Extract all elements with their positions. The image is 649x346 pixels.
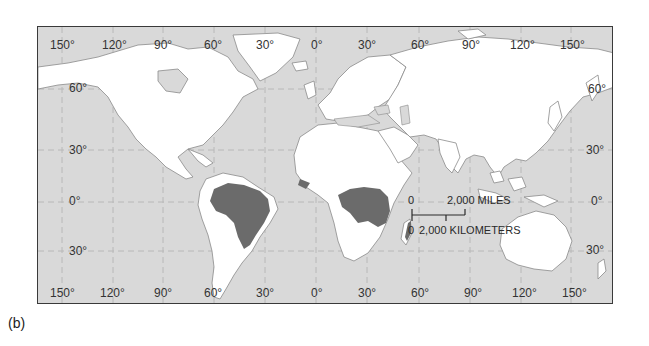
- world-map: 150° 120° 90° 60° 30° 0° 30° 60° 90° 120…: [37, 26, 613, 304]
- scale-km-label: 2,000 KILOMETERS: [419, 225, 521, 236]
- scale-miles-zero: 0: [408, 195, 414, 206]
- top-lon-label: 150°: [50, 39, 75, 51]
- scale-km-zero: 0: [408, 225, 414, 236]
- top-lon-label: 90°: [154, 39, 172, 51]
- map-canvas: [38, 27, 613, 304]
- top-lon-label: 120°: [510, 39, 535, 51]
- panel-label: (b): [8, 315, 25, 331]
- top-lon-label: 30°: [256, 39, 274, 51]
- left-lat-label: 60°: [69, 82, 87, 94]
- bottom-lon-label: 90°: [154, 287, 172, 299]
- bottom-lon-label: 30°: [358, 287, 376, 299]
- australia: [500, 211, 572, 271]
- top-lon-label: 60°: [411, 39, 429, 51]
- top-lon-label: 0°: [311, 39, 322, 51]
- bottom-lon-label: 60°: [204, 287, 222, 299]
- bottom-lon-label: 90°: [464, 287, 482, 299]
- left-lat-label: 30°: [69, 144, 87, 156]
- scale-miles-label: 2,000 MILES: [447, 195, 511, 206]
- right-lat-label: 30°: [586, 244, 604, 256]
- bottom-lon-label: 30°: [256, 287, 274, 299]
- bottom-lon-label: 120°: [512, 287, 537, 299]
- right-lat-label: 30°: [586, 144, 604, 156]
- left-lat-label: 0°: [69, 195, 80, 207]
- scale-bar: [412, 209, 465, 221]
- right-lat-label: 60°: [588, 83, 606, 95]
- bottom-lon-label: 120°: [100, 287, 125, 299]
- top-lon-label: 150°: [560, 39, 585, 51]
- top-lon-label: 90°: [462, 39, 480, 51]
- top-lon-label: 120°: [102, 39, 127, 51]
- top-lon-label: 60°: [204, 39, 222, 51]
- left-lat-label: 30°: [69, 245, 87, 257]
- north-america: [38, 43, 258, 179]
- top-lon-label: 30°: [358, 39, 376, 51]
- bottom-lon-label: 150°: [50, 287, 75, 299]
- right-lat-label: 0°: [591, 195, 602, 207]
- bottom-lon-label: 150°: [562, 287, 587, 299]
- bottom-lon-label: 0°: [311, 287, 322, 299]
- asia: [383, 37, 613, 177]
- bottom-lon-label: 60°: [411, 287, 429, 299]
- land-masses: [38, 29, 613, 299]
